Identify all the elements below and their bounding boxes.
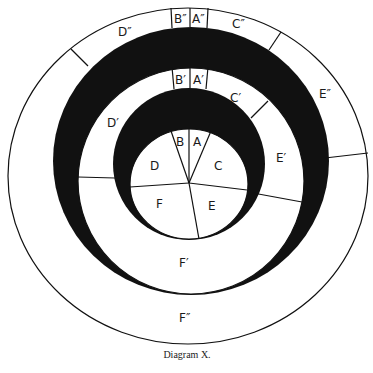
concentric-sector-diagram: B A D C F E B′ A′ D′ C′ E′ F′ B″ A″ D″ C… [0, 0, 373, 373]
label-outer-f: F″ [179, 311, 191, 325]
label-middle-f: F′ [179, 256, 189, 270]
label-inner-a: A [193, 135, 202, 149]
label-outer-b: B″ [174, 12, 187, 26]
label-middle-d: D′ [107, 116, 119, 130]
label-inner-d: D [150, 159, 159, 173]
label-middle-e: E′ [276, 151, 287, 165]
label-outer-a: A″ [192, 12, 205, 26]
label-middle-c: C′ [230, 91, 241, 105]
label-inner-e: E [208, 199, 216, 213]
label-inner-c: C [214, 159, 222, 173]
label-outer-c: C″ [232, 17, 245, 31]
label-inner-f: F [156, 197, 163, 211]
label-middle-b: B′ [175, 73, 186, 87]
label-inner-b: B [176, 135, 184, 149]
label-middle-a: A′ [193, 73, 204, 87]
label-outer-d: D″ [118, 25, 132, 39]
diagram-caption: Diagram X. [163, 349, 210, 360]
label-outer-e: E″ [319, 87, 332, 101]
